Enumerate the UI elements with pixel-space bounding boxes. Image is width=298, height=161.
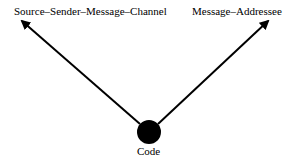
arrow-to-message-addressee [158, 21, 268, 124]
code-label: Code [137, 145, 160, 157]
code-node-circle [137, 120, 161, 144]
arrow-to-source-sender-message-channel [22, 21, 140, 124]
message-addressee-label: Message–Addressee [192, 5, 282, 17]
source-sender-message-channel-label: Source–Sender–Message–Channel [14, 5, 167, 17]
diagram-canvas [0, 0, 298, 161]
